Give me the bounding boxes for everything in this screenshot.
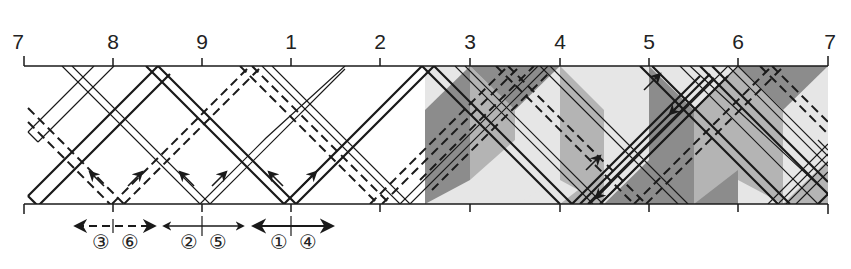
tick-label-1: 1 xyxy=(285,30,297,54)
strip-label-6: ⑥ xyxy=(121,230,139,254)
tick-label-2: 2 xyxy=(374,30,386,54)
strip-label-5: ⑤ xyxy=(209,230,227,254)
tick-label-3: 3 xyxy=(464,30,476,54)
tick-label-6: 6 xyxy=(732,30,744,54)
tick-label-9: 9 xyxy=(196,30,208,54)
bottom-axis xyxy=(24,204,828,214)
strip-label-3: ③ xyxy=(92,230,110,254)
strip-label-4: ④ xyxy=(299,230,317,254)
tick-label-7-start: 7 xyxy=(12,30,24,54)
strip-label-2: ② xyxy=(180,230,198,254)
strip-label-1: ① xyxy=(270,230,288,254)
tick-label-7-end: 7 xyxy=(824,30,836,54)
tick-label-8: 8 xyxy=(107,30,119,54)
tick-label-4: 4 xyxy=(554,30,566,54)
weave-diagram xyxy=(0,0,851,269)
legend-arrows xyxy=(76,216,332,236)
top-axis xyxy=(24,56,828,66)
tick-label-5: 5 xyxy=(643,30,655,54)
